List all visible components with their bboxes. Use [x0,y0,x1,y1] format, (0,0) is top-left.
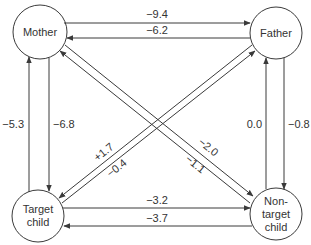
node-father-label: Father [260,27,292,39]
node-nontarget-child-label-line1: Non- [264,195,288,207]
node-nontarget-child: Non- target child [250,188,302,240]
edge-target-to-nontarget-value: −3.2 [146,194,168,206]
edge-father-to-nontarget-value: −0.8 [288,118,310,130]
edge-mother-to-nontarget-value: −2.0 [196,135,220,158]
node-target-child-label-line2: child [27,216,50,228]
edge-mother-to-father-value: −9.4 [146,8,168,20]
edge-nontarget-to-target-value: −3.7 [146,212,168,224]
edge-father-to-target-value: +1.7 [91,140,115,163]
node-nontarget-child-label-line2: target [262,208,290,220]
node-mother-label: Mother [23,26,58,38]
node-mother: Mother [13,5,67,59]
node-nontarget-child-label-line3: child [265,221,288,233]
edge-mother-to-target-value: −6.8 [53,118,75,130]
edge-nontarget-to-father-value: 0.0 [247,118,262,130]
edge-target-to-father-value: −0.4 [104,156,128,179]
node-target-child-label-line1: Target [23,203,54,215]
edge-nontarget-to-father: 0.0 [247,58,266,189]
edge-nontarget-to-mother-value: −1.1 [183,152,207,175]
node-target-child: Target child [12,190,64,242]
edge-father-to-mother: −6.2 [67,24,250,38]
edge-father-to-target: +1.7 [59,45,252,198]
edge-nontarget-to-mother: −1.1 [60,51,250,203]
edge-target-to-father: −0.4 [62,51,255,203]
edge-target-to-mother: −5.3 [2,57,29,192]
edge-father-to-nontarget: −0.8 [284,58,310,189]
edge-father-to-mother-value: −6.2 [146,24,168,36]
edge-target-to-nontarget: −3.2 [63,194,250,208]
edge-target-to-mother-value: −5.3 [2,118,24,130]
node-father: Father [250,7,302,59]
edge-nontarget-to-target: −3.7 [64,212,252,226]
edge-mother-to-father: −9.4 [64,8,250,23]
edge-mother-to-nontarget: −2.0 [65,45,253,196]
edge-mother-to-target: −6.8 [49,58,75,191]
family-interaction-diagram: Mother Father Target child Non- target c… [0,0,311,245]
